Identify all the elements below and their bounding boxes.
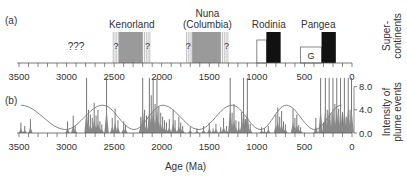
x-tick-label: 1000: [246, 141, 267, 152]
x-axis-title: Age (Ma): [165, 161, 206, 172]
plume-fill: [104, 108, 108, 133]
x-tick-label: 3000: [56, 141, 77, 152]
supercontinent-name: Nuna: [195, 8, 219, 19]
plume-fill: [28, 127, 32, 133]
supercontinent-bar-1: [192, 32, 221, 63]
x-tick-label: 2000: [151, 71, 172, 82]
x-tick-label: 3000: [56, 71, 77, 82]
gondwana-label: G: [308, 51, 315, 61]
x-tick-label: 1500: [199, 141, 220, 152]
x-tick-label: 0: [349, 71, 354, 82]
x-tick-label: 1500: [199, 71, 220, 82]
supercontinent-bar-0: [119, 32, 143, 63]
unknown-label: ???: [68, 41, 85, 52]
question-mark: ?: [224, 41, 229, 51]
ylabel-supercontinents-line: continents: [392, 13, 403, 59]
panel-a-supercontinents: (a)?????Kenorland??Nuna(Columbia)Rodinia…: [5, 8, 403, 82]
plume-fill: [201, 130, 205, 133]
plume-fill: [318, 108, 322, 133]
x-tick-label: 500: [296, 141, 312, 152]
x-tick-label: 500: [296, 71, 312, 82]
plume-fill: [207, 128, 211, 133]
x-tick-label: 2000: [151, 141, 172, 152]
y-tick-label: 8.0: [359, 81, 372, 92]
ylabel-plume-intensity: Intensity ofplume events: [381, 82, 403, 141]
supercontinent-bar-3: [322, 32, 336, 63]
plume-fill: [19, 128, 23, 133]
precursor-box: [257, 40, 267, 63]
supercontinent-name: Pangea: [301, 19, 336, 30]
question-mark: ?: [114, 41, 119, 51]
plume-fill: [167, 127, 171, 133]
ylabel-supercontinents-line: Super-: [381, 21, 392, 51]
x-tick-label: 1000: [246, 71, 267, 82]
panel-label-b: (b): [5, 95, 17, 106]
y-tick-label: 4.0: [359, 104, 372, 115]
ylabel-plume-intensity-line: plume events: [392, 82, 403, 141]
supercontinent-plume-chart: (a)?????Kenorland??Nuna(Columbia)Rodinia…: [0, 0, 407, 177]
x-tick-label: 2500: [104, 141, 125, 152]
plume-fill: [266, 130, 270, 133]
supercontinent-name: (Columbia): [183, 19, 232, 30]
ylabel-supercontinents: Super-continents: [381, 13, 403, 59]
ylabel-plume-intensity-line: Intensity of: [381, 88, 392, 137]
panel-label-a: (a): [5, 15, 17, 26]
plume-fill: [214, 129, 218, 133]
supercontinent-name: Kenorland: [109, 19, 155, 30]
plume-fill: [23, 130, 27, 133]
y-tick-label: 0.0: [359, 128, 372, 139]
x-tick-label: 0: [349, 141, 354, 152]
supercontinent-name: Rodinia: [252, 19, 286, 30]
x-tick-label: 3500: [8, 141, 29, 152]
x-tick-label: 3500: [8, 71, 29, 82]
question-mark: ?: [145, 41, 150, 51]
panel-b-plume-intensity: (b)35003000250020001500100050000.04.08.0…: [5, 78, 403, 172]
supercontinent-bar-2: [266, 32, 280, 63]
question-mark: ?: [186, 41, 191, 51]
